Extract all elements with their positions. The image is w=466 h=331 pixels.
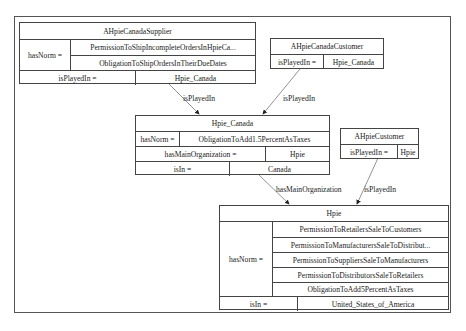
diagram-canvas: isPlayedIn isPlayedIn hasMainOrganizatio… [0, 0, 466, 331]
attr-key: isPlayedIn = [341, 145, 397, 159]
edge-label: hasMainOrganization [276, 185, 342, 194]
attr-key: hasNorm = [20, 40, 71, 70]
attr-value: PermissionToShipIncompleteOrdersInHpieCa… [71, 40, 255, 55]
attr-value: PermissionToSuppliersSaleToManufacturers [273, 252, 448, 267]
edge-label: isPlayedIn [283, 94, 315, 103]
attr-value: ObligationToShipOrdersInTheirDueDates [71, 55, 255, 70]
node-title: Hpie_Canada [136, 116, 329, 131]
attr-value: Hpie [397, 145, 418, 159]
node-title: Hpie [220, 206, 448, 221]
node-ahpie-canada-supplier[interactable]: AHpieCanadaSupplier hasNorm = Permission… [19, 22, 256, 84]
attr-value: PermissionToDistributorsSaleToRetailers [273, 267, 448, 282]
attr-key: hasNorm = [136, 132, 179, 146]
attr-key: isIn = [136, 162, 229, 176]
edge-customer-to-hpie [357, 158, 378, 204]
attr-value: PermissionToRetailersSaleToCustomers [273, 222, 448, 237]
node-hpie-canada[interactable]: Hpie_Canada hasNorm = ObligationToAdd1.5… [135, 115, 330, 175]
node-ahpie-canada-customer[interactable]: AHpieCanadaCustomer isPlayedIn = Hpie_Ca… [270, 38, 384, 69]
node-title: AHpieCustomer [341, 129, 418, 144]
attr-value: Canada [229, 162, 329, 176]
node-title: AHpieCanadaCustomer [271, 39, 383, 54]
node-hpie[interactable]: Hpie hasNorm = PermissionToRetailersSale… [219, 205, 449, 310]
attr-value: Hpie_Canada [323, 55, 383, 69]
attr-value: Hpie [265, 147, 329, 161]
attr-value: ObligationToAdd1.5PercentAsTaxes [179, 132, 329, 146]
attr-key: isIn = [220, 297, 297, 311]
attr-key: isPlayedIn = [271, 55, 323, 69]
attr-value: United_States_of_America [297, 297, 448, 311]
edge-canada-customer-to-hpie-canada [263, 69, 300, 114]
node-title: AHpieCanadaSupplier [20, 23, 255, 39]
attr-key: hasMainOrganization = [136, 147, 265, 161]
attr-value: ObligationToAdd5PercentAsTaxes [273, 282, 448, 296]
node-ahpie-customer[interactable]: AHpieCustomer isPlayedIn = Hpie [340, 128, 419, 159]
attr-value: Hpie_Canada [135, 71, 255, 85]
edge-label: isPlayedIn [364, 185, 396, 194]
edge-label: isPlayedIn [183, 94, 215, 103]
attr-key: hasNorm = [220, 222, 273, 296]
attr-key: isPlayedIn = [20, 71, 135, 85]
attr-value: PermissionToManufacturersSaleToDistribut… [273, 237, 448, 252]
